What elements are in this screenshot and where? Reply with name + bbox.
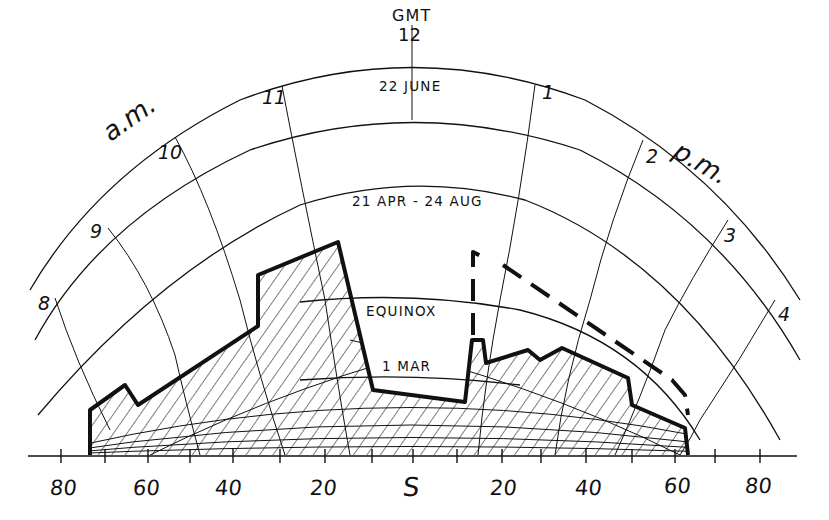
hour-line-4: [680, 300, 775, 455]
gmt-label: GMT: [392, 8, 432, 24]
hour-label-8: 8: [38, 294, 50, 313]
hour-label-11: 11: [262, 88, 286, 107]
hour-label-9: 9: [90, 222, 102, 241]
hour-label-2: 2: [646, 147, 658, 166]
hour-label-3: 3: [724, 226, 736, 245]
label-1-mar: 1 MAR: [382, 360, 431, 374]
axis-label-40-east: 40: [214, 478, 243, 499]
label-22-june: 22 JUNE: [379, 80, 441, 94]
hour-label-1: 1: [542, 83, 554, 102]
axis-label-south: S: [402, 474, 421, 500]
axis-label-60-west: 60: [663, 476, 692, 497]
axis-label-80-east: 80: [49, 478, 78, 499]
axis-label-80-west: 80: [744, 476, 773, 497]
label-21apr-24aug: 21 APR - 24 AUG: [352, 195, 483, 209]
hour-label-10: 10: [158, 143, 182, 162]
axis-label-20-west: 20: [489, 478, 518, 499]
axis-label-20-east: 20: [309, 478, 338, 499]
noon-hour-label: 12: [398, 26, 421, 44]
label-equinox: EQUINOX: [366, 305, 437, 319]
hour-label-4: 4: [778, 305, 790, 324]
axis-label-40-west: 40: [574, 478, 603, 499]
axis-label-60-east: 60: [132, 478, 161, 499]
